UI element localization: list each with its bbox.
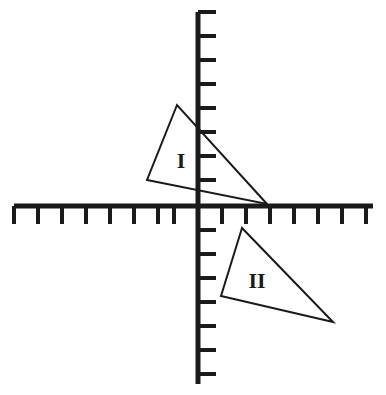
triangle-two-label: II (248, 268, 265, 293)
triangle-one-label: I (177, 148, 186, 173)
figure-canvas: III (0, 0, 386, 395)
x-axis-group (14, 206, 373, 224)
triangle-two-outline (221, 228, 333, 322)
y-axis-group (198, 12, 216, 384)
triangle-two: II (221, 228, 333, 322)
geometry-figure: III (0, 0, 386, 395)
x-axis-tick-group (14, 206, 366, 224)
